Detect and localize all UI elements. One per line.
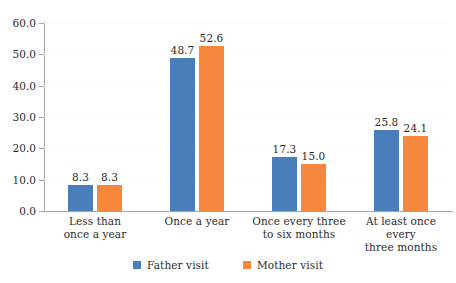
- y-axis-tick: [39, 211, 44, 212]
- category-label-line: once a year: [44, 228, 146, 241]
- category-label: Once every threeto six months: [248, 215, 350, 241]
- y-axis-tick-label: 50.0: [0, 48, 36, 60]
- y-axis-tick-label: 0.0: [0, 205, 36, 217]
- legend-label: Mother visit: [257, 259, 323, 271]
- y-axis-tick-label: 30.0: [0, 111, 36, 123]
- bar-column: 24.1: [403, 23, 428, 211]
- bar-column: 48.7: [170, 23, 195, 211]
- bar[interactable]: [301, 164, 326, 211]
- bar-group: 25.824.1: [350, 23, 452, 211]
- category-label-line: to six months: [248, 228, 350, 241]
- y-axis-tick-label: 60.0: [0, 17, 36, 29]
- category-label: Once a year: [146, 215, 248, 228]
- bar-column: 52.6: [199, 23, 224, 211]
- bar-group-bars: 17.315.0: [248, 23, 350, 211]
- y-axis-tick-label: 10.0: [0, 174, 36, 186]
- y-axis-tick-label: 40.0: [0, 80, 36, 92]
- bar-value-label: 15.0: [292, 150, 336, 162]
- legend-swatch-icon: [133, 261, 141, 269]
- category-label: At least once everythree months: [350, 215, 452, 254]
- legend-swatch-icon: [243, 261, 251, 269]
- bar-value-label: 48.7: [161, 44, 205, 56]
- category-label: Less thanonce a year: [44, 215, 146, 241]
- legend-item[interactable]: Father visit: [133, 259, 209, 271]
- bar-group-bars: 25.824.1: [350, 23, 452, 211]
- bar-group: 48.752.6: [146, 23, 248, 211]
- bar-group: 17.315.0: [248, 23, 350, 211]
- chart-legend: Father visitMother visit: [0, 259, 456, 271]
- category-label-line: three months: [350, 241, 452, 254]
- bar[interactable]: [199, 46, 224, 211]
- category-label-line: Less than: [44, 215, 146, 228]
- category-label-line: Once every three: [248, 215, 350, 228]
- bar[interactable]: [68, 185, 93, 211]
- bar-column: 15.0: [301, 23, 326, 211]
- bar[interactable]: [170, 58, 195, 211]
- plot-area: 8.38.348.752.617.315.025.824.1: [44, 23, 452, 211]
- bar[interactable]: [374, 130, 399, 211]
- bar-group: 8.38.3: [44, 23, 146, 211]
- bar-group-bars: 8.38.3: [44, 23, 146, 211]
- y-axis-tick-label: 20.0: [0, 142, 36, 154]
- legend-item[interactable]: Mother visit: [243, 259, 323, 271]
- bar-chart: 0.010.020.030.040.050.060.0 8.38.348.752…: [0, 0, 456, 283]
- bar[interactable]: [403, 136, 428, 212]
- category-label-line: At least once every: [350, 215, 452, 241]
- category-label-line: Once a year: [146, 215, 248, 228]
- bar[interactable]: [272, 157, 297, 211]
- x-axis-line: [44, 211, 453, 212]
- legend-label: Father visit: [147, 259, 209, 271]
- bar-value-label: 8.3: [88, 171, 132, 183]
- bar[interactable]: [97, 185, 122, 211]
- bar-column: 8.3: [97, 23, 122, 211]
- bar-group-bars: 48.752.6: [146, 23, 248, 211]
- bar-column: 25.8: [374, 23, 399, 211]
- bar-value-label: 24.1: [394, 122, 438, 134]
- bar-value-label: 52.6: [190, 32, 234, 44]
- bar-column: 17.3: [272, 23, 297, 211]
